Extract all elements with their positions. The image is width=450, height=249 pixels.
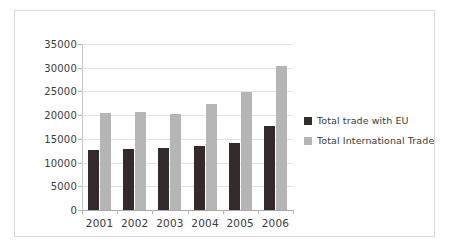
bar (123, 149, 134, 210)
legend-item-label: Total International Trade (317, 135, 434, 146)
x-axis-tick-mark (223, 210, 224, 214)
chart-legend: Total trade with EUTotal International T… (304, 115, 444, 155)
y-axis-tick-label: 20000 (44, 110, 77, 121)
y-axis-tick-mark (78, 44, 82, 45)
bar (88, 150, 99, 210)
x-axis-tick-label: 2003 (152, 217, 187, 229)
x-axis-tick-mark (82, 210, 83, 214)
x-axis-tick-label: 2006 (258, 217, 293, 229)
gridline (82, 115, 293, 116)
chart-screenshot: 05000100001500020000250003000035000 Tota… (0, 0, 450, 249)
bar (100, 113, 111, 210)
x-axis-tick-mark (152, 210, 153, 214)
gridline (82, 186, 293, 187)
x-axis-tick-mark (258, 210, 259, 214)
y-axis-tick-label: 0 (70, 205, 77, 216)
gridline (82, 91, 293, 92)
y-axis-tick-mark (78, 115, 82, 116)
y-axis-tick-labels: 05000100001500020000250003000035000 (15, 44, 77, 210)
y-axis-tick-mark (78, 68, 82, 69)
y-axis-tick-label: 10000 (44, 157, 77, 168)
legend-item: Total International Trade (304, 135, 444, 146)
plot-area (82, 44, 293, 210)
x-axis-tick-mark (293, 210, 294, 214)
x-axis-tick-label: 2004 (188, 217, 223, 229)
y-axis-tick-label: 25000 (44, 86, 77, 97)
y-axis-tick-label: 30000 (44, 62, 77, 73)
x-axis-tick-mark (117, 210, 118, 214)
y-axis-tick-mark (78, 186, 82, 187)
y-axis-tick-label: 35000 (44, 39, 77, 50)
x-axis-tick-label: 2005 (223, 217, 258, 229)
gridline (82, 139, 293, 140)
x-axis-tick-label: 2002 (117, 217, 152, 229)
gridline (82, 68, 293, 69)
legend-item-label: Total trade with EU (317, 115, 409, 126)
y-axis-tick-label: 15000 (44, 133, 77, 144)
y-axis-tick-label: 5000 (51, 181, 77, 192)
bar (206, 104, 217, 210)
y-axis-tick-mark (78, 91, 82, 92)
bar (194, 146, 205, 210)
x-axis-tick-mark (188, 210, 189, 214)
bar (170, 114, 181, 210)
chart-frame: 05000100001500020000250003000035000 Tota… (14, 10, 435, 237)
bar (264, 126, 275, 210)
bar (241, 92, 252, 210)
legend-swatch-icon (304, 117, 312, 125)
y-axis-tick-mark (78, 139, 82, 140)
bar (276, 66, 287, 210)
bar (229, 143, 240, 210)
gridline (82, 163, 293, 164)
gridline (82, 44, 293, 45)
bar (158, 148, 169, 210)
legend-swatch-icon (304, 137, 312, 145)
y-axis-tick-mark (78, 163, 82, 164)
legend-item: Total trade with EU (304, 115, 444, 126)
bar (135, 112, 146, 210)
x-axis-tick-label: 2001 (82, 217, 117, 229)
